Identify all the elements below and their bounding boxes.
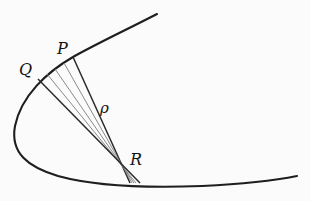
radius-line-mid-3 bbox=[47, 74, 136, 183]
label-rho: ρ bbox=[99, 99, 109, 117]
curvature-diagram: P Q ρ R bbox=[0, 0, 310, 201]
radius-line-q bbox=[38, 79, 140, 183]
label-p: P bbox=[56, 39, 68, 58]
label-r: R bbox=[129, 150, 142, 169]
label-q: Q bbox=[19, 60, 32, 79]
curvature-figure: P Q ρ R bbox=[0, 0, 310, 201]
